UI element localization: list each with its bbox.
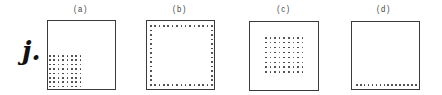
dot bbox=[67, 68, 69, 70]
dot bbox=[154, 25, 156, 27]
dot bbox=[150, 84, 152, 86]
dot bbox=[297, 62, 299, 64]
dot bbox=[283, 62, 285, 64]
dot bbox=[167, 84, 169, 86]
dot bbox=[198, 84, 200, 86]
dot bbox=[211, 84, 213, 86]
dot bbox=[211, 30, 213, 32]
dot bbox=[380, 84, 382, 86]
dot bbox=[270, 71, 272, 73]
dot bbox=[283, 66, 285, 68]
dot bbox=[265, 71, 267, 73]
dot bbox=[189, 84, 191, 86]
dot bbox=[411, 84, 413, 86]
dot bbox=[150, 52, 152, 54]
dot bbox=[211, 61, 213, 63]
dot bbox=[150, 70, 152, 72]
dot bbox=[403, 84, 405, 86]
panel-a-label: (a) bbox=[64, 4, 98, 14]
dot bbox=[376, 84, 378, 86]
dot bbox=[150, 61, 152, 63]
dot bbox=[399, 84, 401, 86]
dot bbox=[71, 73, 73, 75]
dot bbox=[356, 84, 358, 86]
dot bbox=[150, 30, 152, 32]
dot bbox=[53, 68, 55, 70]
dot bbox=[283, 37, 285, 39]
dot bbox=[181, 84, 183, 86]
dot bbox=[274, 57, 276, 59]
dot bbox=[407, 84, 409, 86]
dot bbox=[150, 25, 152, 27]
dot bbox=[211, 25, 213, 27]
dot bbox=[62, 81, 64, 83]
dot bbox=[75, 77, 77, 79]
dot bbox=[265, 62, 267, 64]
panel-c-label: (c) bbox=[267, 4, 301, 14]
dot bbox=[198, 25, 200, 27]
panel-d-label: (d) bbox=[367, 4, 401, 14]
dot bbox=[293, 71, 295, 73]
dot bbox=[270, 37, 272, 39]
dot bbox=[207, 25, 209, 27]
dot bbox=[62, 73, 64, 75]
dot bbox=[67, 59, 69, 61]
dot bbox=[53, 55, 55, 57]
dot bbox=[297, 71, 299, 73]
dot bbox=[288, 71, 290, 73]
dot bbox=[75, 59, 77, 61]
dot bbox=[71, 59, 73, 61]
dot bbox=[274, 66, 276, 68]
dot bbox=[265, 57, 267, 59]
dot bbox=[288, 37, 290, 39]
dot bbox=[167, 25, 169, 27]
dot bbox=[150, 43, 152, 45]
dot bbox=[194, 25, 196, 27]
dot bbox=[297, 66, 299, 68]
dot bbox=[181, 25, 183, 27]
dot bbox=[67, 81, 69, 83]
dot bbox=[62, 55, 64, 57]
dot bbox=[53, 59, 55, 61]
dot bbox=[387, 84, 389, 86]
dot bbox=[71, 77, 73, 79]
dot bbox=[71, 68, 73, 70]
dot bbox=[150, 75, 152, 77]
dot bbox=[288, 57, 290, 59]
dot bbox=[150, 79, 152, 81]
dot bbox=[360, 84, 362, 86]
dot bbox=[62, 68, 64, 70]
dot bbox=[49, 55, 51, 57]
dot bbox=[297, 57, 299, 59]
dot bbox=[293, 37, 295, 39]
dot bbox=[53, 77, 55, 79]
dot bbox=[67, 55, 69, 57]
dot bbox=[49, 81, 51, 83]
dot bbox=[211, 52, 213, 54]
dot bbox=[211, 75, 213, 77]
row-label: j. bbox=[22, 38, 40, 64]
dot bbox=[288, 62, 290, 64]
dot bbox=[62, 77, 64, 79]
dot bbox=[53, 81, 55, 83]
dot bbox=[176, 25, 178, 27]
panel-b bbox=[146, 20, 215, 90]
dot bbox=[293, 66, 295, 68]
dot bbox=[202, 84, 204, 86]
dot bbox=[283, 57, 285, 59]
panel-d bbox=[351, 21, 420, 90]
dot bbox=[71, 55, 73, 57]
dot bbox=[288, 66, 290, 68]
dot bbox=[415, 84, 417, 86]
dot bbox=[150, 39, 152, 41]
dot bbox=[384, 84, 386, 86]
dot bbox=[283, 71, 285, 73]
dot bbox=[211, 79, 213, 81]
dot bbox=[189, 25, 191, 27]
dot bbox=[75, 73, 77, 75]
dot bbox=[274, 37, 276, 39]
panel-b-label: (b) bbox=[163, 4, 197, 14]
dot bbox=[274, 62, 276, 64]
dot bbox=[265, 66, 267, 68]
dot bbox=[154, 84, 156, 86]
